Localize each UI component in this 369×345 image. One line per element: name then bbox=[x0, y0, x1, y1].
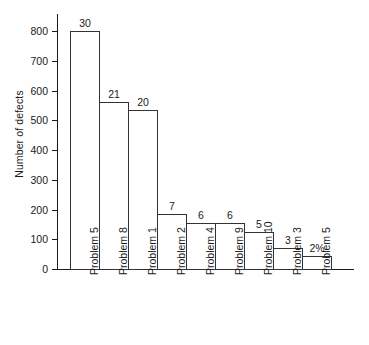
y-axis-tick bbox=[52, 239, 57, 240]
y-axis-tick-label: 800 bbox=[8, 26, 48, 37]
y-axis-tick bbox=[52, 210, 57, 211]
x-axis-category-label: Problem 5 bbox=[89, 227, 100, 275]
x-axis-category-label: Problem 2 bbox=[176, 227, 187, 275]
y-axis-tick bbox=[52, 31, 57, 32]
x-axis-category-label: Problem 4 bbox=[205, 227, 216, 275]
x-axis-category-label: Problem 5 bbox=[321, 227, 332, 275]
y-axis-tick bbox=[52, 91, 57, 92]
y-axis-tick bbox=[52, 180, 57, 181]
y-axis-tick-label: 200 bbox=[8, 205, 48, 216]
y-axis-tick bbox=[52, 120, 57, 121]
x-axis-category-label: Problem 1 bbox=[147, 227, 158, 275]
bar-value-label: 30 bbox=[60, 18, 110, 29]
y-axis-tick bbox=[52, 150, 57, 151]
x-axis-category-label: Problem 8 bbox=[118, 227, 129, 275]
y-axis-tick-label: 0 bbox=[8, 264, 48, 275]
x-axis-category-label: Problem 3 bbox=[292, 227, 303, 275]
y-axis-tick-label: 600 bbox=[8, 86, 48, 97]
y-axis-tick-label: 400 bbox=[8, 145, 48, 156]
y-axis-tick bbox=[52, 61, 57, 62]
y-axis-line bbox=[57, 14, 58, 270]
bar-value-label: 20 bbox=[118, 97, 168, 108]
y-axis-tick bbox=[52, 269, 57, 270]
y-axis-tick-label: 100 bbox=[8, 234, 48, 245]
y-axis-tick-label: 700 bbox=[8, 56, 48, 67]
x-axis-category-label: Problem 10 bbox=[263, 221, 274, 275]
x-axis-category-label: Problem 9 bbox=[234, 227, 245, 275]
y-axis-tick-label: 500 bbox=[8, 115, 48, 126]
y-axis-tick-label: 300 bbox=[8, 175, 48, 186]
pareto-bar-chart: Number of defects 0100200300400500600700… bbox=[0, 0, 369, 345]
